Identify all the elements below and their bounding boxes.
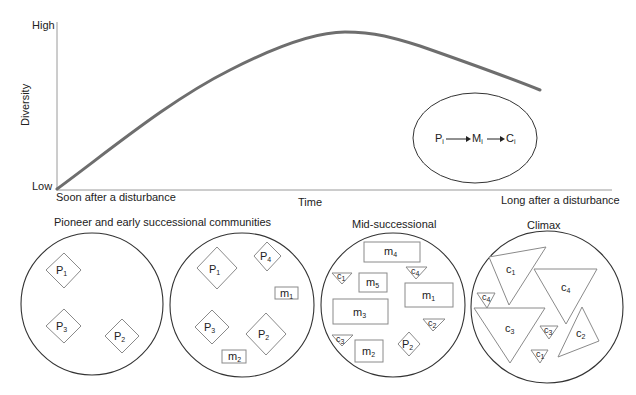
y-axis-label: Diversity (19, 83, 31, 126)
succession-diagram: High Low Diversity Soon after a disturba… (0, 0, 636, 395)
diversity-curve (57, 32, 540, 189)
species-m1: m1 (405, 283, 453, 307)
species-m2: m2 (355, 340, 383, 362)
species-m5: m5 (359, 273, 387, 292)
species-p3: P3 (195, 310, 229, 344)
species-c1: c1 (332, 271, 352, 284)
species-p2: P2 (246, 313, 286, 355)
species-p3: P3 (46, 309, 81, 343)
community-pioneer: P1 P3 P2 (21, 233, 163, 375)
stage-label-pioneer: Pioneer and early successional communiti… (54, 216, 272, 228)
species-p1: P1 (197, 247, 237, 289)
species-p2: P2 (105, 319, 139, 353)
x-tick-start: Soon after a disturbance (56, 191, 176, 203)
species-m4: m4 (364, 242, 420, 262)
diversity-graph: High Low Diversity Soon after a disturba… (19, 19, 620, 208)
community-mid: m4 c1 m5 c4 m1 m3 c2 c3 m2 P2 (321, 233, 465, 377)
stage-label-climax: Climax (527, 219, 561, 231)
community-early: P1 P4 m1 P3 P2 m2 (170, 233, 314, 377)
svg-text:Pi: Pi (435, 132, 444, 145)
species-p4: P4 (254, 242, 281, 271)
sequence-label: Pi Mi Ci (435, 132, 516, 145)
species-c4: c4 (406, 266, 427, 279)
species-m2: m2 (222, 350, 246, 363)
species-m3: m3 (333, 299, 388, 324)
species-c1-large: c1 (489, 247, 546, 305)
x-tick-end: Long after a disturbance (501, 194, 620, 206)
y-tick-high: High (32, 19, 55, 31)
svg-text:Ci: Ci (506, 132, 516, 145)
x-axis-label: Time (298, 196, 322, 208)
stage-label-mid: Mid-successional (352, 218, 436, 230)
species-c4-small: c4 (477, 292, 495, 308)
species-c1-small: c1 (531, 349, 548, 363)
species-c4-large: c4 (534, 269, 597, 324)
species-p1: P1 (46, 253, 81, 288)
species-c3: c3 (332, 334, 353, 346)
species-c3-small: c3 (540, 325, 558, 339)
species-p2: P2 (398, 332, 420, 356)
community-climax: c1 c4 c4 c3 c3 c2 c1 (471, 231, 623, 383)
species-c2: c2 (423, 318, 445, 331)
svg-text:Mi: Mi (472, 132, 483, 145)
species-m1: m1 (275, 287, 298, 300)
y-tick-low: Low (32, 180, 52, 192)
